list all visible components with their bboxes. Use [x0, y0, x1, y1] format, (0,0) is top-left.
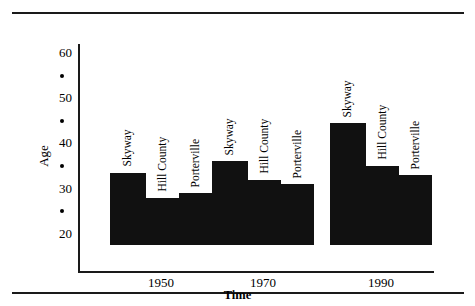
y-axis-minor-tick-dot [60, 74, 64, 78]
bar[interactable] [212, 161, 248, 245]
x-axis-title: Time [0, 288, 475, 303]
series-label: Skyway [342, 80, 354, 117]
y-axis-tick-label: 40 [46, 136, 72, 149]
x-axis-tick-label: 1990 [330, 276, 432, 290]
series-label: Hill County [156, 137, 168, 192]
bar[interactable] [248, 180, 281, 245]
series-label: Porterville [409, 120, 421, 169]
bar[interactable] [281, 184, 314, 245]
bar-group: SkywayHill CountyPorterville [110, 44, 212, 245]
bar[interactable] [179, 193, 212, 245]
y-axis-tick-label: 30 [46, 182, 72, 195]
bar-chart: Age 2030405060 SkywayHill CountyPortervi… [0, 0, 475, 306]
bar[interactable] [399, 175, 432, 245]
bar[interactable] [366, 166, 399, 245]
series-label: Porterville [189, 139, 201, 188]
y-axis-minor-tick-dot [60, 119, 64, 123]
x-axis-line [78, 271, 434, 273]
series-label: Hill County [258, 119, 270, 174]
y-axis-ticks: 2030405060 [42, 0, 72, 306]
x-axis-tick-label: 1970 [212, 276, 314, 290]
series-label: Skyway [224, 118, 236, 155]
x-axis-tick-label: 1950 [110, 276, 212, 290]
bar-group: SkywayHill CountyPorterville [330, 44, 432, 245]
bar-group: SkywayHill CountyPorterville [212, 44, 314, 245]
bar[interactable] [146, 198, 179, 245]
plot-area: SkywayHill CountyPortervilleSkywayHill C… [80, 44, 434, 271]
y-axis-minor-tick-dot [60, 209, 64, 213]
series-label: Skyway [122, 130, 134, 167]
bar[interactable] [110, 173, 146, 245]
y-axis-tick-label: 50 [46, 91, 72, 104]
y-axis-tick-label: 20 [46, 227, 72, 240]
bar[interactable] [330, 123, 366, 245]
y-axis-minor-tick-dot [60, 164, 64, 168]
series-label: Porterville [291, 129, 303, 178]
series-label: Hill County [376, 105, 388, 160]
y-axis-tick-label: 60 [46, 46, 72, 59]
